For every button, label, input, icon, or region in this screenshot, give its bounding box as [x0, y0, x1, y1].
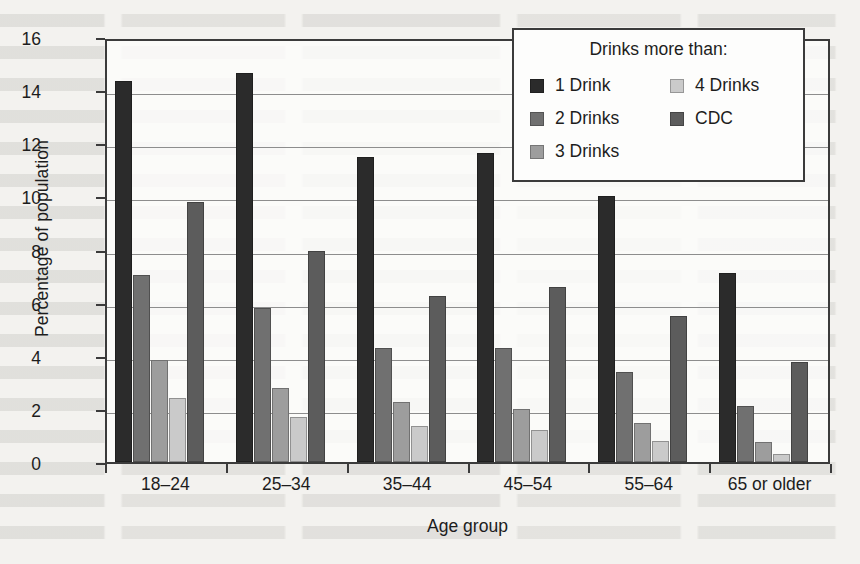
bar: [151, 360, 168, 462]
legend-swatch-icon: [530, 112, 544, 126]
bar: [393, 402, 410, 462]
legend-title: Drinks more than:: [514, 39, 803, 60]
y-axis-tick-mark: [96, 410, 105, 412]
y-axis-tick-mark: [96, 251, 105, 253]
bar: [773, 454, 790, 462]
y-axis-tick-mark: [96, 304, 105, 306]
bar: [737, 406, 754, 462]
x-axis-tick-mark: [226, 464, 228, 473]
x-axis-tick-label: 35–44: [383, 474, 432, 495]
legend-item-label: 4 Drinks: [695, 75, 759, 96]
legend-item: CDC: [670, 102, 759, 135]
legend-body: 1 Drink2 Drinks3 Drinks 4 DrinksCDC: [514, 69, 803, 169]
bar: [169, 398, 186, 462]
bar: [411, 426, 428, 462]
bar: [115, 81, 132, 462]
bar-group: [228, 41, 349, 462]
legend-column-left: 1 Drink2 Drinks3 Drinks: [530, 69, 619, 168]
x-axis-tick-label: 65 or older: [728, 474, 812, 495]
bar: [308, 251, 325, 462]
bar-chart-figure: Percentage of population 0246810121416 1…: [0, 0, 860, 564]
bar: [375, 348, 392, 462]
bar: [133, 275, 150, 462]
bar: [477, 153, 494, 462]
bar: [254, 308, 271, 462]
bar-group: [107, 41, 228, 462]
legend-item: 2 Drinks: [530, 102, 619, 135]
legend-swatch-icon: [530, 145, 544, 159]
x-axis-tick-mark: [830, 464, 832, 473]
bar-group: [349, 41, 470, 462]
bar: [755, 442, 772, 462]
y-axis-tick-label: 6: [0, 295, 41, 316]
x-axis-tick-label: 55–64: [624, 474, 673, 495]
x-axis-tick-label: 25–34: [262, 474, 311, 495]
bar: [531, 430, 548, 462]
x-axis-title: Age group: [105, 516, 830, 537]
y-axis-tick-label: 10: [0, 188, 41, 209]
y-axis-tick-mark: [96, 197, 105, 199]
x-axis-tick-mark: [347, 464, 349, 473]
y-axis-tick-label: 8: [0, 242, 41, 263]
legend-swatch-icon: [670, 79, 684, 93]
legend-item: 3 Drinks: [530, 135, 619, 168]
legend-swatch-icon: [670, 112, 684, 126]
bar: [791, 362, 808, 462]
legend-item: 1 Drink: [530, 69, 619, 102]
bar: [634, 423, 651, 462]
y-axis-tick-label: 0: [0, 454, 41, 475]
x-axis-tick-label: 45–54: [504, 474, 553, 495]
y-axis-tick-label: 12: [0, 135, 41, 156]
bar: [513, 409, 530, 462]
legend-item-label: CDC: [695, 108, 733, 129]
bar: [598, 196, 615, 462]
bar: [357, 157, 374, 462]
legend-swatch-icon: [530, 79, 544, 93]
bar: [290, 417, 307, 462]
bar: [236, 73, 253, 462]
bar: [429, 296, 446, 462]
bar: [187, 202, 204, 462]
legend-item: 4 Drinks: [670, 69, 759, 102]
chart-legend: Drinks more than: 1 Drink2 Drinks3 Drink…: [512, 28, 805, 182]
y-axis-tick-mark: [96, 144, 105, 146]
bar: [495, 348, 512, 462]
bar: [272, 388, 289, 462]
y-axis-tick-label: 4: [0, 348, 41, 369]
legend-item-label: 3 Drinks: [555, 141, 619, 162]
bar: [719, 273, 736, 462]
legend-item-label: 2 Drinks: [555, 108, 619, 129]
legend-column-right: 4 DrinksCDC: [670, 69, 759, 135]
y-axis-tick-mark: [96, 38, 105, 40]
bar: [670, 316, 687, 462]
x-axis-tick-mark: [105, 464, 107, 473]
x-axis-tick-mark: [709, 464, 711, 473]
x-axis-tick-label: 18–24: [141, 474, 190, 495]
y-axis-tick-label: 2: [0, 401, 41, 422]
y-axis-tick-mark: [96, 463, 105, 465]
x-axis-tick-mark: [468, 464, 470, 473]
bar: [616, 372, 633, 462]
legend-item-label: 1 Drink: [555, 75, 610, 96]
y-axis-tick-mark: [96, 91, 105, 93]
y-axis-tick-mark: [96, 357, 105, 359]
x-axis-tick-mark: [588, 464, 590, 473]
bar: [652, 441, 669, 462]
y-axis-tick-label: 14: [0, 82, 41, 103]
y-axis-tick-label: 16: [0, 29, 41, 50]
bar: [549, 287, 566, 462]
